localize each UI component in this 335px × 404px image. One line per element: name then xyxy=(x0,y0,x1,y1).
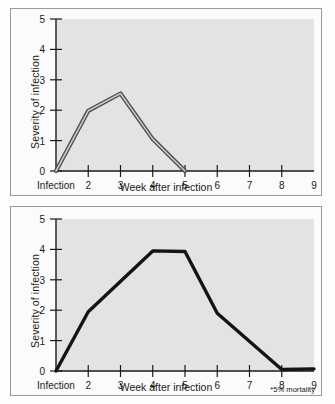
figure-root: Severity of infection Uncomplicated infe… xyxy=(0,0,335,404)
chart-panel-severe: Severity of infection Severe infection O… xyxy=(10,206,322,396)
footnote-mortality: *5% mortality xyxy=(270,385,315,394)
svg-text:1: 1 xyxy=(39,336,45,347)
svg-text:4: 4 xyxy=(39,44,45,55)
svg-text:5: 5 xyxy=(39,14,45,25)
svg-text:1: 1 xyxy=(39,136,45,147)
svg-text:4: 4 xyxy=(39,244,45,255)
svg-text:5: 5 xyxy=(39,214,45,225)
plot-area-uncomplicated: Severity of infection Uncomplicated infe… xyxy=(11,9,321,195)
chart-svg-uncomplicated: 0 1 2 3 4 5 Infection 2 xyxy=(11,9,323,197)
svg-text:2: 2 xyxy=(39,305,45,316)
svg-text:0: 0 xyxy=(39,166,45,177)
x-axis-label-top: Week after infection xyxy=(11,181,321,193)
plot-background-bottom xyxy=(56,219,314,371)
plot-area-severe: Severity of infection Severe infection O… xyxy=(11,207,321,395)
chart-panel-uncomplicated: Severity of infection Uncomplicated infe… xyxy=(10,8,322,196)
svg-text:2: 2 xyxy=(39,105,45,116)
svg-text:0: 0 xyxy=(39,366,45,377)
svg-text:3: 3 xyxy=(39,75,45,86)
plot-background-top xyxy=(56,19,314,171)
chart-svg-severe: 0 1 2 3 4 5 Infection 2 xyxy=(11,207,323,397)
svg-text:3: 3 xyxy=(39,275,45,286)
